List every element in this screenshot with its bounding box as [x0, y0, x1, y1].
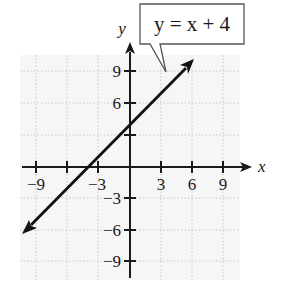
- y-tick-label: −3: [103, 189, 121, 208]
- y-tick-label: 9: [113, 62, 122, 81]
- equation-label: y = x + 4: [154, 12, 231, 36]
- x-tick-label: 3: [157, 175, 166, 194]
- y-tick-label: −9: [103, 252, 121, 271]
- y-tick-label: 6: [113, 94, 122, 113]
- graph: −9 −3 3 6 9 9 6 −3 −6 −9 x y y = x + 4: [0, 0, 282, 290]
- x-tick-label: 6: [188, 175, 197, 194]
- y-axis-label: y: [116, 19, 126, 38]
- x-tick-label: 9: [219, 175, 228, 194]
- x-axis-label: x: [257, 157, 266, 176]
- x-tick-label: −9: [27, 175, 45, 194]
- y-tick-label: −6: [103, 221, 121, 240]
